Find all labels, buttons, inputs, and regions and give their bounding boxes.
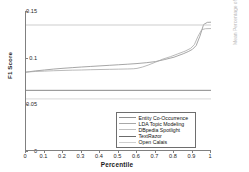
series-line-lda-topic-modeling bbox=[26, 29, 211, 73]
legend-swatch-entity-co-occurrence bbox=[119, 117, 136, 118]
series-line-entity-co-occurrence bbox=[26, 22, 211, 72]
y-axis-label: F1 Score bbox=[6, 40, 13, 92]
figure-entity-linking-f1-by-percentile: F1 Score Percentile 00.050.10.15 00.10.2… bbox=[0, 0, 249, 172]
x-axis-label: Percentile bbox=[22, 161, 212, 168]
legend-label-open-calais: Open Calais bbox=[139, 139, 168, 145]
legend-item-open-calais[interactable]: Open Calais bbox=[119, 139, 193, 145]
legend[interactable]: Entity Co-OccurrenceLDA Topic ModelingDB… bbox=[116, 112, 196, 148]
adjacent-figure-label-fragment: Mean Percentage of Reach bbox=[232, 0, 238, 45]
legend-swatch-open-calais bbox=[119, 142, 136, 143]
legend-swatch-dbpedia-spotlight bbox=[119, 129, 136, 130]
legend-swatch-textrazor bbox=[119, 136, 136, 137]
x-tick-1: 1 bbox=[199, 153, 221, 159]
legend-swatch-lda-topic-modeling bbox=[119, 123, 136, 124]
